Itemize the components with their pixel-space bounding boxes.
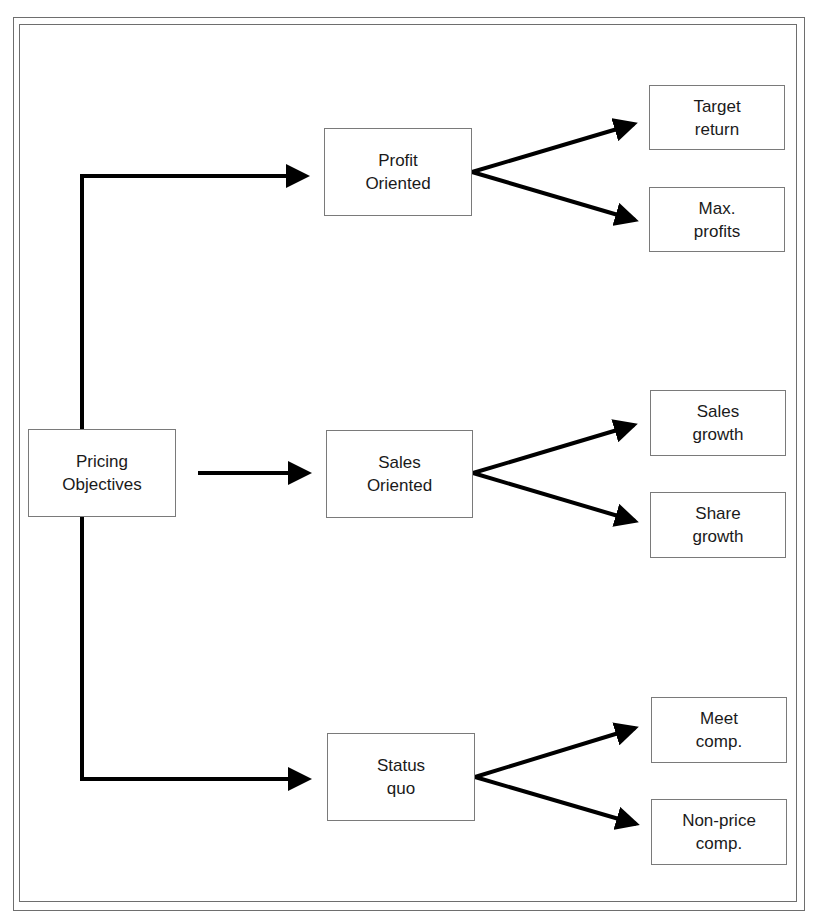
node-label: growth: [692, 423, 743, 446]
node-target-return: Target return: [649, 85, 785, 150]
node-pricing-objectives: Pricing Objectives: [28, 429, 176, 517]
trunk-to-profit-arrow: [82, 176, 306, 429]
node-label: Share: [692, 502, 743, 525]
node-sales-oriented: Sales Oriented: [326, 430, 473, 518]
trunk-to-status-arrow: [82, 517, 308, 779]
node-label: Profit: [365, 149, 430, 172]
node-label: quo: [377, 777, 425, 800]
node-label: comp.: [682, 832, 756, 855]
node-meet-comp: Meet comp.: [651, 697, 787, 763]
status-to-nonprice-arrow: [475, 777, 636, 824]
node-sales-growth: Sales growth: [650, 390, 786, 456]
node-label: Sales: [692, 400, 743, 423]
node-label: Non-price: [682, 809, 756, 832]
sales-to-salesgrowth-arrow: [473, 425, 634, 473]
node-label: Objectives: [62, 473, 141, 496]
node-label: growth: [692, 525, 743, 548]
node-share-growth: Share growth: [650, 492, 786, 558]
node-non-price-comp: Non-price comp.: [651, 799, 787, 865]
node-profit-oriented: Profit Oriented: [324, 128, 472, 216]
node-label: Oriented: [367, 474, 432, 497]
profit-to-max-arrow: [472, 172, 635, 220]
node-label: Target: [693, 95, 740, 118]
node-label: Oriented: [365, 172, 430, 195]
node-status-quo: Status quo: [327, 733, 475, 821]
node-label: Sales: [367, 451, 432, 474]
node-max-profits: Max. profits: [649, 187, 785, 252]
profit-to-target-arrow: [472, 124, 634, 172]
node-label: profits: [694, 220, 740, 243]
sales-to-sharegrowth-arrow: [473, 473, 635, 521]
node-label: Meet: [696, 707, 742, 730]
node-label: return: [693, 118, 740, 141]
node-label: Max.: [694, 197, 740, 220]
status-to-meet-arrow: [475, 728, 635, 777]
node-label: Pricing: [62, 450, 141, 473]
node-label: Status: [377, 754, 425, 777]
node-label: comp.: [696, 730, 742, 753]
